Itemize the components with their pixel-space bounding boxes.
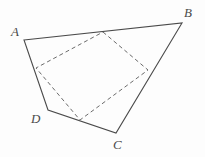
vertex-label-d: D <box>31 112 40 125</box>
outer-quadrilateral-abcd <box>24 23 182 133</box>
vertex-label-c: C <box>113 138 122 151</box>
vertex-label-b: B <box>184 6 192 19</box>
vertex-label-a: A <box>11 25 19 38</box>
geometry-figure: A B C D <box>0 0 205 157</box>
geometry-canvas <box>0 0 205 157</box>
